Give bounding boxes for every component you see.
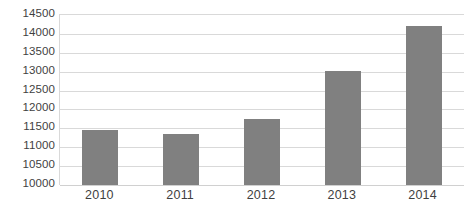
y-tick-label: 11500 xyxy=(23,121,55,133)
y-tick-label: 14000 xyxy=(23,27,55,39)
x-tick-label: 2012 xyxy=(221,188,302,202)
x-tick-label: 2013 xyxy=(301,188,382,202)
bar xyxy=(406,26,442,185)
y-tick-label: 11000 xyxy=(23,140,55,152)
y-tick-label: 14500 xyxy=(23,8,55,20)
y-tick-label: 10000 xyxy=(23,178,55,190)
y-axis: 14500 14000 13500 13000 12500 12000 1150… xyxy=(0,0,57,220)
x-tick-label: 2014 xyxy=(382,188,463,202)
plot-area xyxy=(59,14,464,185)
bars-layer xyxy=(60,15,464,185)
x-axis-line xyxy=(60,185,464,186)
bar-chart: 14500 14000 13500 13000 12500 12000 1150… xyxy=(0,0,476,220)
y-tick-label: 12500 xyxy=(23,84,55,96)
y-tick-label: 12000 xyxy=(23,102,55,114)
x-axis: 2010 2011 2012 2013 2014 xyxy=(59,188,463,212)
x-tick-label: 2011 xyxy=(140,188,221,202)
y-tick-label: 13000 xyxy=(23,65,55,77)
x-tick-label: 2010 xyxy=(59,188,140,202)
y-tick-label: 13500 xyxy=(23,46,55,58)
bar xyxy=(244,119,280,185)
bar xyxy=(163,134,199,185)
y-tick-label: 10500 xyxy=(23,159,55,171)
bar xyxy=(82,130,118,185)
bar xyxy=(325,71,361,185)
